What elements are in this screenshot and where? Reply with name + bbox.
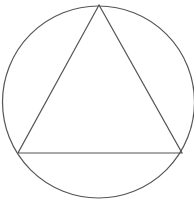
diagram-svg — [0, 0, 194, 202]
circumscribed-circle — [3, 6, 195, 198]
inscribed-triangle — [18, 5, 182, 153]
